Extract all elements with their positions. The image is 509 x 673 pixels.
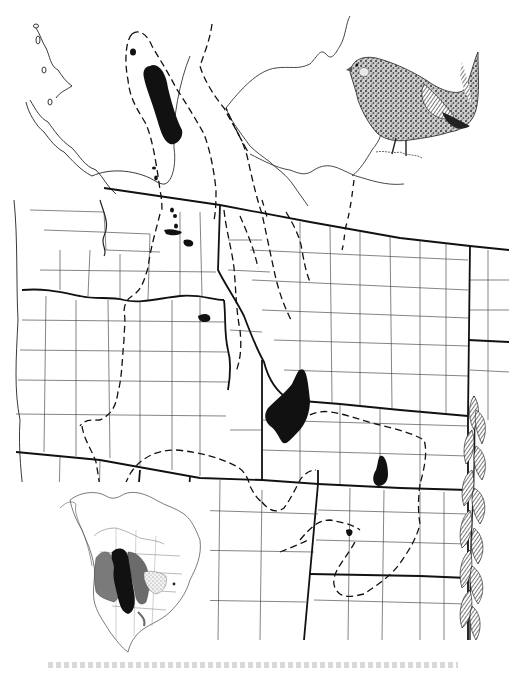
patch-bc-small [130,49,136,56]
main-map [0,0,509,673]
patch-bc-south [152,166,156,169]
range-patches [130,49,388,537]
patch-co-northwest [373,456,388,486]
grass-sprig-illustration [460,396,485,640]
patch-wa-cluster [164,207,193,246]
caption-text-illegible [48,662,458,668]
grouse-illustration [346,52,479,158]
inset-north-america-map [10,482,210,660]
caption-truncated [0,660,509,673]
coastline [14,24,168,500]
patch-wa-east [154,176,158,181]
patch-co-south [346,529,353,536]
range-map-figure [0,0,509,673]
